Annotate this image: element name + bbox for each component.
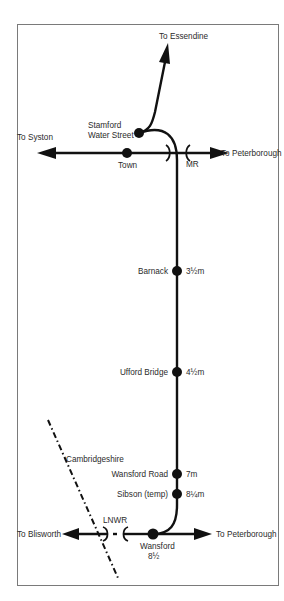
station-dot-ufford-bridge bbox=[172, 367, 182, 377]
station-dot-barnack bbox=[172, 266, 182, 276]
station-wansford-road: Wansford Road bbox=[111, 470, 168, 479]
company-lnwr: LNWR bbox=[103, 516, 127, 525]
destination-peterborough-top: To Peterborough bbox=[221, 149, 282, 158]
diagram-frame bbox=[18, 25, 279, 586]
arrow-east-bottom-icon bbox=[194, 528, 212, 540]
station-dot-sibson bbox=[172, 489, 182, 499]
arrow-west-icon bbox=[37, 147, 56, 159]
station-stamford-line1: Stamford bbox=[88, 121, 122, 130]
station-stamford-line2: Water Street bbox=[88, 131, 134, 140]
station-sibson: Sibson (temp) bbox=[117, 490, 168, 499]
station-wansford: Wansford bbox=[140, 542, 175, 551]
destination-syston: To Syston bbox=[17, 133, 53, 142]
station-dot-town bbox=[122, 148, 132, 158]
station-dot-wansford bbox=[148, 529, 159, 540]
company-mr: MR bbox=[186, 160, 199, 169]
station-barnack: Barnack bbox=[138, 267, 169, 276]
distance-barnack: 3½m bbox=[186, 267, 204, 276]
track-to-essendine bbox=[139, 62, 165, 133]
destination-blisworth: To Blisworth bbox=[17, 530, 62, 539]
railway-diagram: Cambridgeshire To Essendine To Syston To… bbox=[0, 0, 284, 601]
arrow-west-bottom-icon bbox=[62, 528, 79, 540]
station-dot-stamford-water-street bbox=[134, 128, 144, 138]
distance-wansford: 8½ bbox=[148, 552, 160, 561]
station-dot-wansford-road bbox=[172, 469, 182, 479]
destination-peterborough-bottom: To Peterborough bbox=[216, 530, 277, 539]
county-boundary-line bbox=[48, 420, 118, 578]
destination-essendine: To Essendine bbox=[159, 32, 209, 41]
arrow-north-icon bbox=[159, 43, 170, 64]
distance-sibson: 8¼m bbox=[186, 490, 204, 499]
station-ufford-bridge: Ufford Bridge bbox=[120, 368, 169, 377]
distance-wansford-road: 7m bbox=[186, 470, 198, 479]
station-town: Town bbox=[118, 161, 138, 170]
county-label: Cambridgeshire bbox=[66, 455, 124, 464]
distance-ufford-bridge: 4½m bbox=[186, 368, 204, 377]
